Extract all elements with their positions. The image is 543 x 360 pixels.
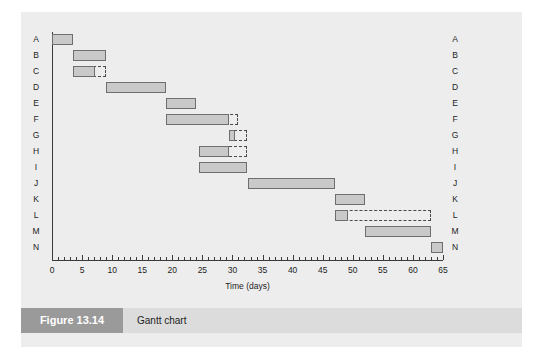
y-axis-label-left-d: D bbox=[28, 82, 44, 92]
y-axis-line bbox=[52, 32, 53, 260]
x-axis-major-tick bbox=[323, 255, 324, 260]
gantt-bar-a bbox=[52, 34, 73, 45]
y-axis-label-left-c: C bbox=[28, 66, 44, 76]
gantt-bar-n bbox=[431, 242, 443, 253]
x-axis-minor-tick bbox=[437, 257, 438, 260]
x-axis-major-tick bbox=[263, 255, 264, 260]
y-axis-label-right-h: H bbox=[447, 146, 463, 156]
gantt-bar-i bbox=[199, 162, 247, 173]
gantt-bar-g bbox=[229, 130, 235, 141]
x-axis-minor-tick bbox=[124, 257, 125, 260]
x-axis-major-tick bbox=[443, 255, 444, 260]
x-axis-major-tick bbox=[52, 255, 53, 260]
figure-panel: 05101520253035404550556065Time (days)AAB… bbox=[21, 12, 522, 347]
y-axis-label-right-e: E bbox=[447, 98, 463, 108]
y-axis-label-right-a: A bbox=[447, 34, 463, 44]
x-axis-tick-label: 15 bbox=[131, 265, 153, 275]
x-axis-minor-tick bbox=[299, 257, 300, 260]
x-axis-minor-tick bbox=[88, 257, 89, 260]
figure-caption-text: Gantt chart bbox=[137, 308, 186, 333]
x-axis-minor-tick bbox=[311, 257, 312, 260]
figure-caption-bar: Figure 13.14 Gantt chart bbox=[21, 308, 522, 333]
gantt-bar-m bbox=[365, 226, 431, 237]
x-axis-minor-tick bbox=[208, 257, 209, 260]
figure-number-label: Figure 13.14 bbox=[21, 308, 123, 333]
y-axis-label-left-m: M bbox=[28, 226, 44, 236]
x-axis-major-tick bbox=[172, 255, 173, 260]
x-axis-minor-tick bbox=[94, 257, 95, 260]
x-axis-minor-tick bbox=[130, 257, 131, 260]
x-axis-minor-tick bbox=[100, 257, 101, 260]
x-axis-minor-tick bbox=[407, 257, 408, 260]
x-axis-minor-tick bbox=[118, 257, 119, 260]
y-axis-label-left-l: L bbox=[28, 210, 44, 220]
x-axis-minor-tick bbox=[275, 257, 276, 260]
x-axis-tick-label: 10 bbox=[101, 265, 123, 275]
x-axis-minor-tick bbox=[154, 257, 155, 260]
y-axis-label-right-i: I bbox=[447, 162, 463, 172]
x-axis-minor-tick bbox=[269, 257, 270, 260]
x-axis-title: Time (days) bbox=[148, 281, 348, 292]
x-axis-minor-tick bbox=[389, 257, 390, 260]
x-axis-major-tick bbox=[413, 255, 414, 260]
gantt-bar-h bbox=[199, 146, 229, 157]
x-axis-major-tick bbox=[112, 255, 113, 260]
x-axis-minor-tick bbox=[281, 257, 282, 260]
x-axis-minor-tick bbox=[329, 257, 330, 260]
x-axis-minor-tick bbox=[401, 257, 402, 260]
x-axis-minor-tick bbox=[365, 257, 366, 260]
x-axis-minor-tick bbox=[166, 257, 167, 260]
x-axis-minor-tick bbox=[257, 257, 258, 260]
y-axis-label-left-h: H bbox=[28, 146, 44, 156]
figure-page: 05101520253035404550556065Time (days)AAB… bbox=[0, 0, 543, 360]
x-axis-tick-label: 40 bbox=[282, 265, 304, 275]
y-axis-label-left-b: B bbox=[28, 50, 44, 60]
gantt-bar-e bbox=[166, 98, 196, 109]
y-axis-label-left-g: G bbox=[28, 130, 44, 140]
x-axis-minor-tick bbox=[317, 257, 318, 260]
x-axis-minor-tick bbox=[160, 257, 161, 260]
x-axis-minor-tick bbox=[341, 257, 342, 260]
x-axis-tick-label: 60 bbox=[402, 265, 424, 275]
x-axis-minor-tick bbox=[395, 257, 396, 260]
x-axis-major-tick bbox=[383, 255, 384, 260]
gantt-bar-d bbox=[106, 82, 166, 93]
x-axis-minor-tick bbox=[347, 257, 348, 260]
x-axis-tick-label: 55 bbox=[372, 265, 394, 275]
y-axis-label-right-c: C bbox=[447, 66, 463, 76]
y-axis-label-right-l: L bbox=[447, 210, 463, 220]
gantt-bar-l bbox=[335, 210, 348, 221]
gantt-bar-k bbox=[335, 194, 365, 205]
x-axis-minor-tick bbox=[371, 257, 372, 260]
x-axis-major-tick bbox=[202, 255, 203, 260]
x-axis-minor-tick bbox=[184, 257, 185, 260]
x-axis-minor-tick bbox=[425, 257, 426, 260]
x-axis-minor-tick bbox=[431, 257, 432, 260]
x-axis-tick-label: 25 bbox=[191, 265, 213, 275]
gantt-bar-f bbox=[166, 114, 229, 125]
y-axis-label-left-f: F bbox=[28, 114, 44, 124]
y-axis-label-left-e: E bbox=[28, 98, 44, 108]
x-axis-major-tick bbox=[142, 255, 143, 260]
y-axis-label-right-j: J bbox=[447, 178, 463, 188]
x-axis-minor-tick bbox=[305, 257, 306, 260]
y-axis-label-right-f: F bbox=[447, 114, 463, 124]
x-axis-major-tick bbox=[293, 255, 294, 260]
x-axis-tick-label: 0 bbox=[41, 265, 63, 275]
x-axis-tick-label: 65 bbox=[432, 265, 454, 275]
y-axis-label-left-a: A bbox=[28, 34, 44, 44]
y-axis-label-left-i: I bbox=[28, 162, 44, 172]
x-axis-minor-tick bbox=[76, 257, 77, 260]
x-axis-minor-tick bbox=[251, 257, 252, 260]
y-axis-label-left-j: J bbox=[28, 178, 44, 188]
x-axis-minor-tick bbox=[58, 257, 59, 260]
y-axis-label-right-n: N bbox=[447, 242, 463, 252]
x-axis-minor-tick bbox=[178, 257, 179, 260]
y-axis-label-right-d: D bbox=[447, 82, 463, 92]
x-axis-tick-label: 45 bbox=[312, 265, 334, 275]
x-axis-minor-tick bbox=[196, 257, 197, 260]
x-axis-minor-tick bbox=[419, 257, 420, 260]
x-axis-minor-tick bbox=[106, 257, 107, 260]
x-axis-minor-tick bbox=[359, 257, 360, 260]
gantt-chart-plot-area: 05101520253035404550556065Time (days)AAB… bbox=[21, 12, 522, 302]
